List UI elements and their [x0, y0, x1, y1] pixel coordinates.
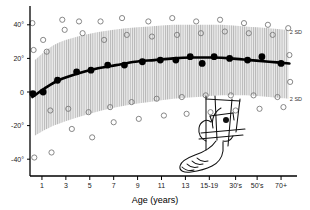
mean-marker [40, 89, 47, 96]
two-sd-band [35, 25, 288, 136]
x-tick-label: 50's [251, 182, 264, 189]
mean-marker [157, 57, 164, 64]
observation-marker [281, 105, 286, 110]
x-tick-label: 1 [40, 182, 44, 189]
x-axis-tick-labels: 13579111315-1930's50's70+ [40, 182, 287, 189]
x-axis-title: Age (years) [132, 195, 179, 205]
observation-marker [288, 79, 293, 84]
observation-marker [111, 120, 116, 125]
observation-marker [217, 17, 222, 22]
observation-marker [90, 135, 95, 140]
observation-marker [146, 19, 151, 24]
observation-marker [62, 27, 67, 32]
x-tick-label: 13 [182, 182, 190, 189]
observation-marker [32, 155, 37, 160]
y-tick-label: -40° [11, 156, 24, 163]
mean-marker [226, 55, 233, 62]
observation-marker [184, 111, 189, 116]
observation-marker [136, 116, 141, 121]
plot-area [29, 15, 292, 160]
observation-marker [69, 126, 74, 131]
observation-marker [265, 22, 270, 27]
x-tick-label: 9 [136, 182, 140, 189]
observation-marker [60, 17, 65, 22]
mean-marker [73, 68, 80, 75]
x-tick-label: 30's [229, 182, 242, 189]
mean-marker [244, 57, 251, 64]
observation-marker [257, 106, 262, 111]
mean-marker [187, 53, 194, 60]
observation-marker [161, 113, 166, 118]
observation-marker [119, 15, 124, 20]
mean-marker [211, 53, 218, 60]
observation-marker [170, 15, 175, 20]
mean-marker [104, 62, 111, 69]
mean-marker [199, 60, 206, 67]
mean-marker [88, 67, 95, 74]
x-tick-label: 3 [64, 182, 68, 189]
angle-vs-age-scatter-chart: 40°20°0-20°-40° 13579111315-1930's50's70… [0, 0, 310, 210]
chart-container: 40°20°0-20°-40° 13579111315-1930's50's70… [0, 0, 310, 210]
observation-marker [98, 19, 103, 24]
observation-marker [49, 150, 54, 155]
x-tick-label: 11 [158, 182, 165, 189]
mean-marker [172, 57, 179, 64]
mean-marker [54, 77, 61, 84]
mean-marker [278, 60, 285, 67]
y-tick-label: 40° [13, 21, 24, 28]
observation-marker [233, 108, 238, 113]
observation-marker [208, 110, 213, 115]
sd-annotations: 2 SD2 SD [290, 29, 302, 102]
y-tick-label: -20° [11, 122, 24, 129]
mean-marker [139, 58, 146, 65]
y-tick-label: 20° [13, 55, 24, 62]
mean-marker [259, 53, 266, 60]
observation-marker [31, 47, 36, 52]
observation-marker [76, 19, 81, 24]
observation-marker [80, 31, 85, 36]
observation-marker [241, 21, 246, 26]
y-axis-tick-labels: 40°20°0-20°-40° [11, 21, 24, 162]
leg-foot-angle-diagram [180, 96, 245, 172]
observation-marker [41, 37, 46, 42]
x-tick-label: 15-19 [200, 182, 218, 189]
lower-2sd-label: 2 SD [290, 96, 302, 102]
observation-marker [194, 19, 199, 24]
x-tick-label: 5 [88, 182, 92, 189]
upper-2sd-label: 2 SD [290, 29, 302, 35]
x-tick-label: 7 [112, 182, 116, 189]
mean-marker [121, 62, 128, 69]
x-tick-label: 70+ [275, 182, 287, 189]
y-tick-label: 0 [20, 89, 24, 96]
